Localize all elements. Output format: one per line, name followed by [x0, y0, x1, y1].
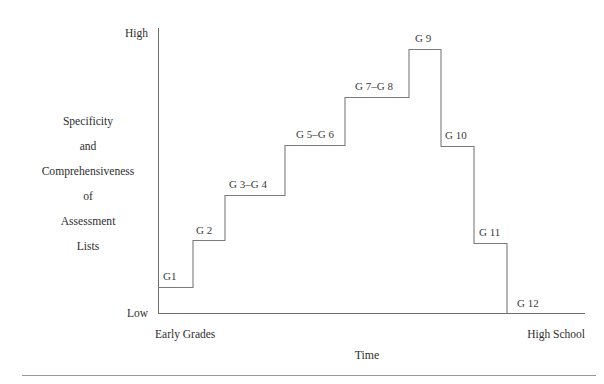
step-label-g9: G 9 — [415, 32, 432, 44]
y-axis-low-label: Low — [127, 307, 149, 319]
step-label-g3-g4: G 3–G 4 — [229, 178, 267, 190]
step-label-g5-g6: G 5–G 6 — [296, 128, 334, 140]
step-label-g12: G 12 — [517, 297, 539, 309]
step-label-g2: G 2 — [196, 224, 212, 236]
step-label-g10: G 10 — [445, 129, 467, 141]
x-axis-title: Time — [355, 348, 379, 362]
y-axis-high-label: High — [125, 27, 148, 40]
x-axis-end-label: High School — [527, 328, 585, 341]
y-axis-title-line-3: of — [83, 190, 93, 203]
y-axis-title-line-0: Specificity — [63, 115, 113, 128]
step-label-g11: G 11 — [479, 226, 500, 238]
step-chart-figure: High Low Specificity and Comprehensivene… — [0, 0, 604, 384]
y-axis-title: Specificity and Comprehensiveness of Ass… — [42, 115, 135, 253]
chart-canvas: High Low Specificity and Comprehensivene… — [0, 0, 604, 384]
y-axis-title-line-1: and — [80, 140, 97, 153]
step-label-g1: G1 — [163, 270, 176, 282]
y-axis-title-line-5: Lists — [77, 240, 100, 253]
step-labels: G1 G 2 G 3–G 4 G 5–G 6 G 7–G 8 G 9 G 10 … — [163, 32, 539, 309]
step-function-path — [158, 50, 507, 314]
step-label-g7-g8: G 7–G 8 — [355, 80, 393, 92]
y-axis-title-line-4: Assessment — [61, 215, 117, 228]
x-axis-start-label: Early Grades — [155, 328, 216, 341]
y-axis-title-line-2: Comprehensiveness — [42, 165, 135, 178]
